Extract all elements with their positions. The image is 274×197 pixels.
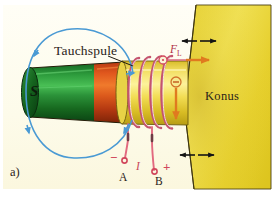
label-terminal-a-sign: − xyxy=(110,151,117,164)
field-arrowhead-top-right xyxy=(126,73,134,74)
label-terminal-b-sign: + xyxy=(163,160,170,173)
label-lorentz-force-symbol: F xyxy=(170,43,177,55)
panel-label: a) xyxy=(10,166,20,179)
label-lorentz-force: FL xyxy=(170,44,182,58)
label-tauchspule: Tauchspule xyxy=(54,44,117,58)
label-lorentz-force-subscript: L xyxy=(177,49,182,58)
label-terminal-a: A xyxy=(119,172,127,184)
label-magnet-south-pole: S xyxy=(30,84,38,99)
label-terminal-b: B xyxy=(155,176,163,188)
label-konus: Konus xyxy=(205,90,239,103)
current-out-of-plane-dot xyxy=(162,59,164,61)
label-current: I xyxy=(136,161,140,173)
figure-panel-a: Tauchspule Konus a) S − A + B I FL xyxy=(0,0,274,197)
